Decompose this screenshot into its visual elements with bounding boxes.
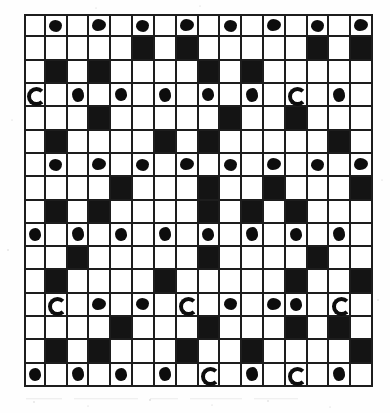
grid-cell[interactable] [46,14,68,37]
grid-cell[interactable] [133,247,155,270]
grid-cell[interactable] [286,270,308,293]
grid-cell[interactable] [111,224,133,247]
grid-cell[interactable] [351,84,373,107]
lattice-grid[interactable] [24,14,373,387]
grid-cell[interactable] [24,201,46,224]
grid-cell[interactable] [308,364,330,387]
grid-cell[interactable] [89,84,111,107]
grid-cell[interactable] [46,294,68,317]
grid-cell[interactable] [220,340,242,363]
grid-cell[interactable] [89,201,111,224]
grid-cell[interactable] [68,247,90,270]
grid-cell[interactable] [24,364,46,387]
grid-cell[interactable] [264,270,286,293]
grid-cell[interactable] [111,317,133,340]
grid-cell[interactable] [351,247,373,270]
grid-cell[interactable] [351,340,373,363]
grid-cell[interactable] [329,84,351,107]
grid-cell[interactable] [308,247,330,270]
grid-cell[interactable] [155,131,177,154]
grid-cell[interactable] [286,364,308,387]
grid-cell[interactable] [68,224,90,247]
grid-cell[interactable] [220,201,242,224]
grid-cell[interactable] [242,107,264,130]
grid-cell[interactable] [111,154,133,177]
grid-cell[interactable] [264,201,286,224]
grid-cell[interactable] [264,131,286,154]
grid-cell[interactable] [329,224,351,247]
grid-cell[interactable] [242,14,264,37]
grid-cell[interactable] [220,154,242,177]
grid-cell[interactable] [46,84,68,107]
grid-cell[interactable] [177,201,199,224]
grid-cell[interactable] [111,294,133,317]
grid-cell[interactable] [89,14,111,37]
grid-cell[interactable] [68,37,90,60]
grid-cell[interactable] [111,201,133,224]
grid-cell[interactable] [199,294,221,317]
grid-cell[interactable] [68,14,90,37]
grid-cell[interactable] [155,177,177,200]
grid-cell[interactable] [46,224,68,247]
grid-cell[interactable] [133,317,155,340]
grid-cell[interactable] [264,84,286,107]
grid-cell[interactable] [89,154,111,177]
grid-cell[interactable] [329,270,351,293]
grid-cell[interactable] [24,107,46,130]
grid-cell[interactable] [220,131,242,154]
grid-cell[interactable] [177,14,199,37]
grid-cell[interactable] [24,131,46,154]
grid-cell[interactable] [24,154,46,177]
grid-cell[interactable] [89,340,111,363]
grid-cell[interactable] [133,131,155,154]
grid-cell[interactable] [133,14,155,37]
grid-cell[interactable] [351,201,373,224]
grid-cell[interactable] [133,107,155,130]
grid-cell[interactable] [264,37,286,60]
grid-cell[interactable] [177,61,199,84]
grid-cell[interactable] [351,14,373,37]
grid-cell[interactable] [24,294,46,317]
grid-cell[interactable] [308,14,330,37]
grid-cell[interactable] [46,37,68,60]
grid-cell[interactable] [24,37,46,60]
grid-cell[interactable] [329,131,351,154]
grid-cell[interactable] [155,61,177,84]
grid-cell[interactable] [308,131,330,154]
grid-cell[interactable] [133,224,155,247]
grid-cell[interactable] [199,107,221,130]
grid-cell[interactable] [177,340,199,363]
grid-cell[interactable] [264,107,286,130]
grid-cell[interactable] [46,107,68,130]
grid-cell[interactable] [286,37,308,60]
grid-cell[interactable] [220,317,242,340]
grid-cell[interactable] [46,317,68,340]
grid-cell[interactable] [264,14,286,37]
grid-cell[interactable] [68,201,90,224]
grid-cell[interactable] [242,37,264,60]
grid-cell[interactable] [264,61,286,84]
grid-cell[interactable] [24,177,46,200]
grid-cell[interactable] [329,154,351,177]
grid-cell[interactable] [220,247,242,270]
grid-cell[interactable] [220,107,242,130]
grid-cell[interactable] [308,224,330,247]
grid-cell[interactable] [220,364,242,387]
grid-cell[interactable] [155,201,177,224]
grid-cell[interactable] [68,294,90,317]
grid-cell[interactable] [111,131,133,154]
grid-cell[interactable] [155,364,177,387]
grid-cell[interactable] [286,154,308,177]
grid-cell[interactable] [308,107,330,130]
grid-cell[interactable] [133,294,155,317]
grid-cell[interactable] [199,270,221,293]
grid-cell[interactable] [242,131,264,154]
grid-cell[interactable] [177,317,199,340]
grid-cell[interactable] [351,107,373,130]
grid-cell[interactable] [242,201,264,224]
grid-cell[interactable] [133,154,155,177]
grid-cell[interactable] [24,317,46,340]
grid-cell[interactable] [242,177,264,200]
grid-cell[interactable] [308,201,330,224]
grid-cell[interactable] [155,154,177,177]
